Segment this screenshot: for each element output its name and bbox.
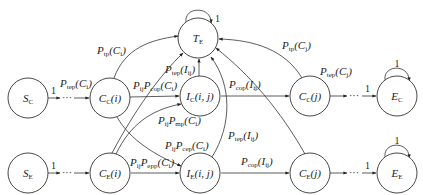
label-te-self: 1 <box>215 13 220 24</box>
svg-text:CC(j): CC(j) <box>299 90 322 104</box>
label-pij-pepp-ci: PijPepp(Ci) <box>129 156 174 170</box>
label-ee-self: 1 <box>395 135 400 146</box>
node-ic-ij: IC(i, j) <box>180 76 220 116</box>
state-diagram: TE SC CC(i) IC(i, j) CC(j) EC SE CE(i) I… <box>0 0 423 195</box>
dots-top-right: ··· <box>349 90 359 101</box>
label-p-tep-iij-mid: Ptep(Iij) <box>227 129 259 143</box>
node-ec: EC <box>377 76 417 116</box>
label-pij-pcop-ci: PijPcop(Ci) <box>132 79 177 93</box>
node-cc-j: CC(j) <box>290 76 330 116</box>
svg-text:CC(i): CC(i) <box>99 92 122 106</box>
node-ce-j: CE(j) <box>290 153 330 193</box>
label-ec-self: 1 <box>395 58 400 69</box>
label-p-tep-iij-top: Ptep(Iij) <box>164 63 196 77</box>
dots-bottom-right: ··· <box>349 167 359 178</box>
node-ee: EE <box>377 153 417 193</box>
label-p-tep-cj: Ptep(Cj) <box>319 65 352 79</box>
dots-bottom-left: ··· <box>62 167 72 178</box>
node-ie-ij: IE(i, j) <box>180 153 220 193</box>
node-se: SE <box>8 153 48 193</box>
label-pij-pcep-ci: PijPcep(Ci) <box>164 139 209 153</box>
svg-text:IC(i, j): IC(i, j) <box>185 90 214 104</box>
label-pij-pmp-ci: PijPmp(Ci) <box>157 114 201 128</box>
edge-cci-to-ic <box>130 96 179 97</box>
label-p-tp-ci: Ptp(Ci) <box>96 44 126 58</box>
label-ccj-out: 1 <box>365 83 370 94</box>
node-te: TE <box>178 18 218 58</box>
label-cej-out: 1 <box>365 160 370 171</box>
dots-top-left: ··· <box>62 92 72 103</box>
label-sc-out: 1 <box>51 85 56 96</box>
label-p-tep-ci: Ptep(Ci) <box>59 77 92 91</box>
node-ce-i: CE(i) <box>90 153 130 193</box>
svg-text:IE(i, j): IE(i, j) <box>186 167 214 181</box>
label-p-cop-iij-top: Pcop(Iij) <box>228 78 261 92</box>
label-p-tp-cj: Ptp(Cj) <box>281 39 311 53</box>
svg-text:CE(i): CE(i) <box>99 167 121 181</box>
label-se-out: 1 <box>51 160 56 171</box>
node-cc-i: CC(i) <box>90 78 130 118</box>
label-p-cop-iij-bot: Pcop(Iij) <box>240 155 273 169</box>
svg-text:CE(j): CE(j) <box>299 167 321 181</box>
node-sc: SC <box>8 78 48 118</box>
